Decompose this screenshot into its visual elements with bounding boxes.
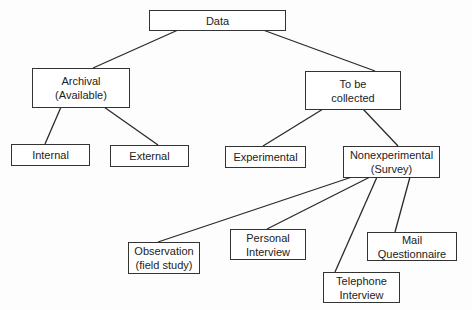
node-data: Data [149,10,286,31]
node-personal-interview: Personal Interview [230,229,306,260]
node-mail-questionnaire: Mail Questionnaire [367,232,457,261]
edge-data-to-be-collected [263,30,375,71]
edge-to-be-collected-nonexperimental [363,109,398,146]
node-telephone-interview: Telephone Interview [323,272,400,303]
node-external: External [110,145,189,167]
edge-data-archival [93,30,178,68]
edge-archival-internal [45,107,61,144]
edge-nonexp-mail-questionnaire [395,177,410,232]
edge-archival-external [104,107,158,145]
node-nonexperimental: Nonexperimental (Survey) [343,146,440,178]
node-experimental: Experimental [225,146,306,168]
data-sources-tree-diagram: Data Archival (Available) To be collecte… [0,0,472,310]
node-to-be-collected: To be collected [305,71,401,110]
node-archival: Archival (Available) [32,68,130,108]
edge-nonexp-personal-interview [267,177,370,229]
node-observation: Observation (field study) [128,242,200,274]
edge-to-be-collected-experimental [263,109,323,146]
node-internal: Internal [11,144,90,166]
